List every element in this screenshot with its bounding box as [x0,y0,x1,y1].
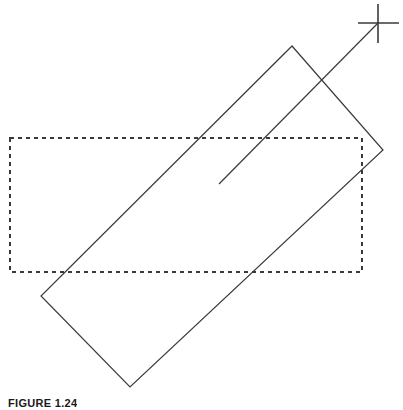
figure-caption: FIGURE 1.24 [8,396,77,410]
figure-container: FIGURE 1.24 [0,0,403,410]
diagram-canvas [0,0,403,410]
canvas-background [0,0,403,410]
